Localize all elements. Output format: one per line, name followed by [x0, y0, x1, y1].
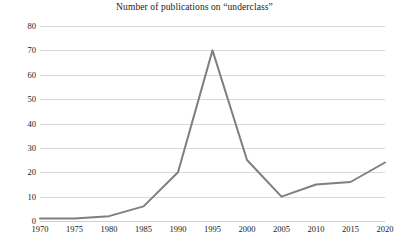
- x-axis-tick-label: 1995: [204, 224, 221, 234]
- y-axis-tick-label: 40: [2, 119, 36, 128]
- y-axis-tick-labels: 01020304050607080: [0, 26, 36, 221]
- y-axis-tick-label: 70: [2, 46, 36, 55]
- chart-title: Number of publications on “underclass”: [0, 2, 389, 12]
- x-axis-tick-label: 1990: [170, 224, 187, 234]
- axis-baseline: [40, 221, 385, 222]
- x-axis-tick-label: 2020: [377, 224, 394, 234]
- y-axis-tick-label: 30: [2, 144, 36, 153]
- x-axis-tick-label: 1975: [66, 224, 83, 234]
- x-axis-tick-label: 1985: [135, 224, 152, 234]
- x-axis-tick-label: 2010: [308, 224, 325, 234]
- x-axis-tick-labels: 1970197519801985199019952000200520102015…: [0, 224, 389, 240]
- plot-area: [40, 26, 385, 221]
- x-axis-tick-label: 2005: [273, 224, 290, 234]
- y-axis-tick-label: 50: [2, 95, 36, 104]
- x-axis-tick-label: 2015: [342, 224, 359, 234]
- x-axis-tick-label: 1980: [101, 224, 118, 234]
- series-line-chart: [40, 26, 385, 221]
- x-axis-tick-label: 1970: [32, 224, 49, 234]
- y-axis-tick-label: 10: [2, 192, 36, 201]
- y-axis-tick-label: 60: [2, 71, 36, 80]
- x-axis-tick-label: 2000: [239, 224, 256, 234]
- series-line-publications: [40, 50, 385, 218]
- y-axis-tick-label: 80: [2, 22, 36, 31]
- y-axis-tick-label: 20: [2, 168, 36, 177]
